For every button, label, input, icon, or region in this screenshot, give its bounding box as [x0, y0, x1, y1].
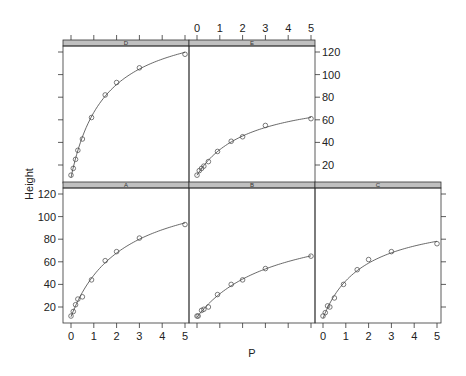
y-tick-label: 120	[322, 46, 340, 58]
x-tick-label: 3	[262, 22, 268, 34]
panel-C: C	[315, 182, 441, 323]
x-axis-label: P	[248, 347, 255, 359]
y-tick-label: 100	[322, 69, 340, 81]
x-tick-label: 0	[194, 22, 200, 34]
y-tick-label: 60	[44, 256, 56, 268]
x-tick-label: 1	[91, 330, 97, 342]
panel-frame-C	[315, 188, 441, 323]
fit-line-E	[197, 117, 311, 175]
panel-D: D	[63, 40, 189, 183]
fit-line-A	[71, 223, 185, 317]
x-tick-label: 1	[343, 330, 349, 342]
data-point	[80, 295, 85, 300]
x-tick-label: 5	[308, 22, 314, 34]
x-tick-label: 2	[114, 330, 120, 342]
y-tick-label: 20	[44, 301, 56, 313]
trellis-chart: DEABC01234501234501234520406080100120204…	[0, 0, 466, 376]
data-point	[183, 222, 188, 227]
y-tick-label: 60	[322, 114, 334, 126]
strip-label-A: A	[124, 182, 128, 188]
fit-line-B	[197, 256, 311, 317]
data-point	[389, 249, 394, 254]
x-tick-label: 3	[388, 330, 394, 342]
y-tick-label: 80	[44, 233, 56, 245]
x-tick-label: 0	[320, 330, 326, 342]
data-point	[206, 305, 211, 310]
data-point	[263, 123, 268, 128]
y-tick-label: 20	[322, 159, 334, 171]
x-tick-label: 4	[285, 22, 291, 34]
data-point	[309, 116, 314, 121]
strip-label-D: D	[124, 40, 129, 46]
x-tick-label: 5	[182, 330, 188, 342]
strip-label-C: C	[376, 182, 381, 188]
x-tick-label: 0	[68, 330, 74, 342]
x-tick-label: 2	[240, 22, 246, 34]
panel-frame-A	[63, 188, 189, 323]
x-tick-label: 2	[366, 330, 372, 342]
y-tick-label: 40	[322, 136, 334, 148]
panel-frame-B	[189, 188, 315, 323]
panel-B: B	[189, 182, 315, 323]
panel-frame-E	[189, 46, 315, 183]
fit-line-D	[71, 52, 185, 177]
y-tick-label: 40	[44, 278, 56, 290]
data-point	[366, 257, 371, 262]
data-point	[435, 241, 440, 246]
strip-label-E: E	[250, 40, 254, 46]
y-tick-label: 100	[38, 211, 56, 223]
y-axis-label: Height	[23, 168, 35, 200]
panel-A: A	[63, 182, 189, 323]
x-tick-label: 4	[159, 330, 165, 342]
x-tick-label: 1	[217, 22, 223, 34]
x-tick-label: 3	[136, 330, 142, 342]
x-tick-label: 5	[434, 330, 440, 342]
y-tick-label: 120	[38, 188, 56, 200]
strip-label-B: B	[250, 182, 254, 188]
panel-E: E	[189, 40, 315, 183]
panels: DEABC01234501234501234520406080100120204…	[38, 22, 446, 342]
x-tick-label: 4	[411, 330, 417, 342]
fit-line-C	[323, 241, 437, 318]
panel-frame-D	[63, 46, 189, 183]
y-tick-label: 80	[322, 91, 334, 103]
